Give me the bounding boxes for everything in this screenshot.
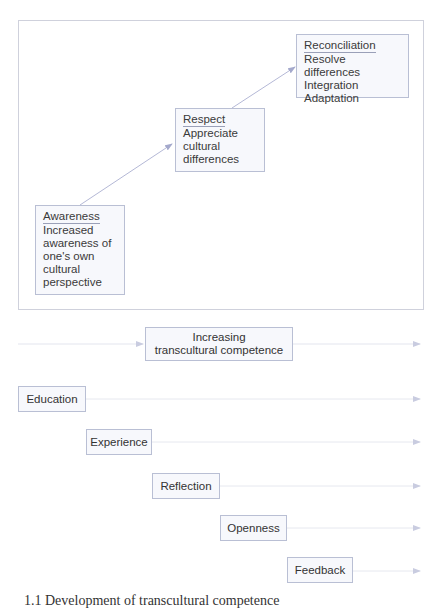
- stage-box-respect: Respect Appreciate cultural differences: [175, 108, 265, 172]
- stage-line: Resolve differences: [304, 53, 401, 79]
- stage-line: Integration: [304, 79, 401, 92]
- factor-label: Experience: [90, 436, 148, 448]
- figure-caption: 1.1 Development of transcultural compete…: [24, 593, 279, 609]
- stage-title: Respect: [183, 113, 225, 127]
- factor-box-experience: Experience: [86, 429, 152, 455]
- stage-line: Adaptation: [304, 92, 401, 105]
- stage-line: perspective: [43, 276, 117, 289]
- stage-box-reconciliation: Reconciliation Resolve differences Integ…: [296, 34, 409, 98]
- stage-line: cultural: [43, 263, 117, 276]
- stage-line: differences: [183, 153, 257, 166]
- factor-label: Feedback: [295, 564, 346, 576]
- stage-line: cultural: [183, 140, 257, 153]
- stage-title: Reconciliation: [304, 39, 376, 53]
- factor-label: Openness: [227, 522, 279, 534]
- stage-line: one's own: [43, 250, 117, 263]
- factor-label: Education: [26, 393, 77, 405]
- progress-label-line1: Increasing: [192, 331, 245, 344]
- stage-line: awareness of: [43, 237, 117, 250]
- factor-box-education: Education: [18, 386, 86, 412]
- progress-label-line2: transcultural competence: [155, 344, 283, 357]
- stage-title: Awareness: [43, 210, 100, 224]
- factor-label: Reflection: [160, 480, 211, 492]
- factor-box-feedback: Feedback: [287, 557, 353, 583]
- progress-label-box: Increasing transcultural competence: [145, 327, 293, 361]
- stage-line: Increased: [43, 224, 117, 237]
- stage-line: Appreciate: [183, 127, 257, 140]
- factor-box-reflection: Reflection: [152, 473, 220, 499]
- factor-box-openness: Openness: [220, 515, 287, 541]
- stage-box-awareness: Awareness Increased awareness of one's o…: [35, 205, 125, 295]
